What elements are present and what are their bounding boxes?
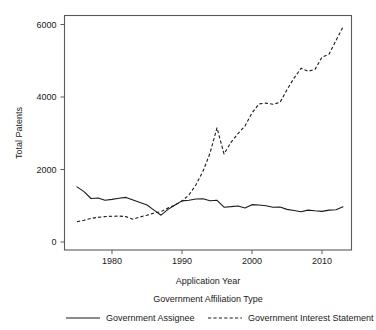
legend-label-government-assignee: Government Assignee (106, 313, 195, 323)
y-tick-label: 2000 (36, 165, 56, 175)
x-tick-label: 2000 (242, 256, 262, 266)
y-tick-label: 6000 (36, 20, 56, 30)
x-tick-label: 2010 (312, 256, 332, 266)
y-tick-label: 4000 (36, 92, 56, 102)
x-tick-label: 1980 (102, 256, 122, 266)
x-tick-label: 1990 (172, 256, 192, 266)
y-tick-label: 0 (51, 237, 56, 247)
y-axis-title: Total Patents (14, 106, 24, 159)
legend-label-government-interest-statement: Government Interest Statement (248, 313, 374, 323)
chart-figure: 0200040006000 1980199020002010 Total Pat… (0, 0, 376, 330)
x-axis-title: Application Year (176, 276, 241, 286)
legend-title: Government Affiliation Type (153, 294, 263, 304)
